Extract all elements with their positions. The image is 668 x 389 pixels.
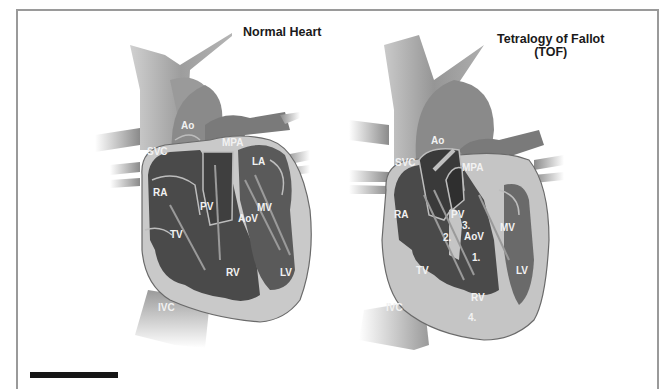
normal-heart-title: Normal Heart <box>243 26 322 39</box>
tof-heart-title: Tetralogy of Fallot (TOF) <box>497 33 604 59</box>
label-lv: LV <box>280 268 292 278</box>
label-mpa: MPA <box>462 163 483 173</box>
label-ivc: IVC <box>386 303 403 313</box>
tof-heart-panel: Tetralogy of Fallot (TOF) Ao SVC MPA RA … <box>334 0 668 378</box>
label-svc: SVC <box>395 158 416 168</box>
label-tv: TV <box>416 266 429 276</box>
label-rv: RV <box>471 293 485 303</box>
label-pv: PV <box>200 202 213 212</box>
label-svc: SVC <box>147 147 168 157</box>
label-ao: Ao <box>181 121 194 131</box>
label-mv: MV <box>500 223 515 233</box>
label-aov: AoV <box>238 214 258 224</box>
label-ao: Ao <box>431 136 444 146</box>
label-la: LA <box>252 157 265 167</box>
label-tv: TV <box>170 230 183 240</box>
label-ra: RA <box>394 210 408 220</box>
label-aov: AoV <box>464 232 484 242</box>
label-marker-3: 3. <box>462 221 470 231</box>
label-ra: RA <box>153 188 167 198</box>
label-rv: RV <box>226 268 240 278</box>
normal-heart-panel: Normal Heart Ao SVC MPA LA RA PV AoV MV … <box>0 0 334 378</box>
scale-bar <box>30 372 118 378</box>
label-marker-4: 4. <box>468 313 476 323</box>
tof-title-line2: (TOF) <box>497 46 604 59</box>
label-mv: MV <box>257 203 272 213</box>
label-marker-1: 1. <box>472 253 480 263</box>
label-ivc: IVC <box>158 303 175 313</box>
label-lv: LV <box>516 266 528 276</box>
label-mpa: MPA <box>222 138 243 148</box>
label-pv: PV <box>451 210 464 220</box>
label-marker-2: 2. <box>443 233 451 243</box>
